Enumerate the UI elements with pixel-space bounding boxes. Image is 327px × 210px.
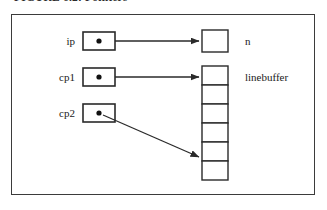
pointer-ip-label: ip — [66, 35, 75, 47]
pointer-cp2: cp2 — [59, 104, 199, 157]
pointer-cp2-label: cp2 — [59, 107, 75, 119]
pointer-diagram: ip cp1 cp2 n linebuffer — [0, 0, 327, 210]
linebuffer-cell-0 — [202, 66, 228, 85]
pointer-cp1: cp1 — [59, 68, 199, 86]
pointer-ip: ip — [66, 32, 199, 50]
box-n-rect — [202, 30, 228, 52]
pointer-cp1-label: cp1 — [59, 71, 75, 83]
linebuffer-cell-2 — [202, 104, 228, 123]
pointer-ip-dot — [96, 38, 101, 43]
linebuffer-cell-4 — [202, 142, 228, 161]
box-n-label: n — [245, 35, 251, 47]
pointer-cp1-dot — [96, 74, 101, 79]
pointer-cp2-dot — [96, 110, 101, 115]
linebuffer-cell-5 — [202, 161, 228, 180]
linebuffer-array: linebuffer — [202, 66, 289, 180]
pointer-cp2-arrow — [103, 115, 199, 157]
linebuffer-cell-1 — [202, 85, 228, 104]
linebuffer-cell-3 — [202, 123, 228, 142]
linebuffer-label: linebuffer — [245, 71, 289, 83]
standalone-box-n: n — [202, 30, 251, 52]
